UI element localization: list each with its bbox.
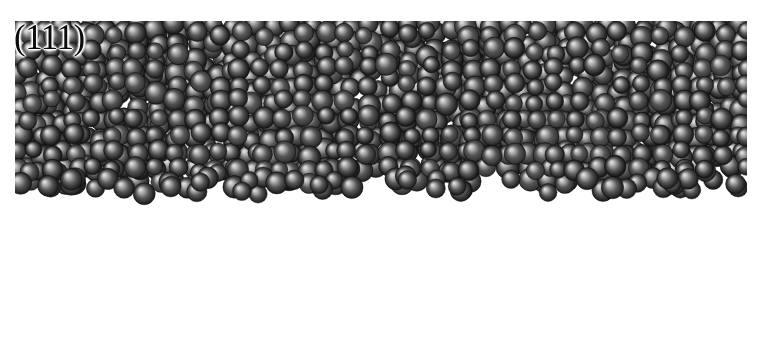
atom-render-canvas [0,0,764,349]
crystal-plane-label: (111) [14,18,85,58]
md-snapshot-figure: (111) [0,0,764,349]
